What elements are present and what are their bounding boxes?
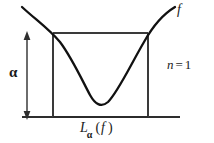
function-label-f: f	[177, 3, 181, 17]
dimension-value: 1	[185, 57, 192, 72]
dimension-variable: n	[167, 57, 174, 72]
alpha-arrowhead-down	[24, 111, 31, 120]
levelset-label: Lα(f)	[80, 121, 113, 138]
alpha-label: α	[9, 65, 17, 80]
dimension-equals-sign: =	[174, 57, 185, 72]
function-curve	[22, 7, 175, 105]
alpha-measure-arrow	[24, 31, 31, 120]
levelset-close-paren: )	[106, 120, 113, 135]
levelset-alpha-subscript: α	[87, 129, 93, 140]
level-set-figure: α f n=1 Lα(f)	[0, 0, 214, 143]
alpha-arrowhead-up	[24, 31, 31, 40]
dimension-annotation: n=1	[167, 58, 191, 71]
